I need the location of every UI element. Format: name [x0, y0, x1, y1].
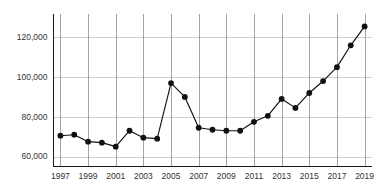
data-point: 2003: 69,500 — [140, 135, 146, 141]
data-point: 2006: 90,000 — [182, 94, 188, 100]
x-tick-label: 2007 — [189, 171, 208, 181]
y-tick-label: 80,000 — [22, 112, 48, 122]
data-point: 2004: 69,000 — [154, 136, 160, 142]
data-point: 1998: 71,000 — [71, 132, 77, 138]
data-point: 2016: 98,000 — [320, 78, 326, 84]
data-point: 2015: 92,000 — [306, 90, 312, 96]
x-tick-label: 2005 — [162, 171, 181, 181]
horizontal-gridlines — [54, 38, 372, 158]
x-tick-label: 2017 — [327, 171, 346, 181]
data-point: 2000: 67,000 — [99, 140, 105, 146]
x-tick-label: 2001 — [106, 171, 125, 181]
data-point: 2013: 89,000 — [279, 96, 285, 102]
x-tick-label: 2019 — [355, 171, 374, 181]
x-tick-label: 2009 — [217, 171, 236, 181]
data-point: 2012: 80,500 — [265, 113, 271, 119]
x-tick-label: 2003 — [134, 171, 153, 181]
data-point: 1999: 67,500 — [85, 139, 91, 145]
x-tick-label: 2015 — [300, 171, 319, 181]
data-point: 2010: 73,000 — [237, 128, 243, 134]
x-tick-label: 1999 — [79, 171, 98, 181]
series-markers: 1997: 70,5001998: 71,0001999: 67,5002000… — [58, 24, 368, 150]
data-point: 1997: 70,500 — [58, 133, 64, 139]
y-tick-label: 120,000 — [17, 32, 48, 42]
x-tick-label: 1997 — [51, 171, 70, 181]
data-point: 2002: 73,000 — [127, 128, 133, 134]
data-point: 2014: 84,500 — [293, 105, 299, 111]
data-point: 2008: 73,500 — [210, 127, 216, 133]
y-axis-tick-labels: 60,00080,000100,000120,000 — [17, 32, 48, 161]
data-point: 2018: 116,000 — [348, 42, 354, 48]
line-chart: 60,00080,000100,000120,000 1997199920012… — [0, 0, 387, 195]
x-axis-tick-labels: 1997199920012003200520072009201120132015… — [51, 171, 374, 181]
data-point: 2011: 77,500 — [251, 119, 257, 125]
x-tick-label: 2013 — [272, 171, 291, 181]
data-point: 2007: 74,500 — [196, 125, 202, 131]
data-series-group: 1997: 70,5001998: 71,0001999: 67,5002000… — [58, 24, 368, 150]
data-point: 2019: 125,500 — [362, 24, 368, 30]
data-point: 2001: 65,000 — [113, 144, 119, 150]
chart-canvas: 60,00080,000100,000120,000 1997199920012… — [0, 0, 387, 195]
data-point: 2017: 105,000 — [334, 64, 340, 70]
data-point: 2005: 97,000 — [168, 80, 174, 86]
y-tick-label: 60,000 — [22, 151, 48, 161]
data-point: 2009: 73,000 — [223, 128, 229, 134]
y-tick-label: 100,000 — [17, 72, 48, 82]
x-tick-label: 2011 — [245, 171, 264, 181]
